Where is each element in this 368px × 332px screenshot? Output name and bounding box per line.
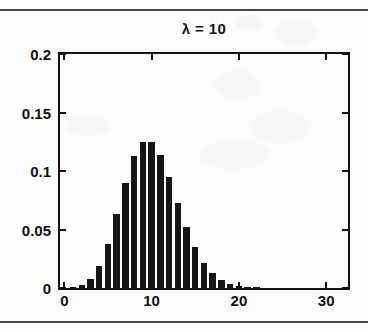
bar xyxy=(157,155,163,288)
bar xyxy=(122,183,128,288)
y-axis-tick-right xyxy=(342,170,348,172)
y-axis-tick-right xyxy=(342,229,348,231)
x-axis-tick xyxy=(238,282,240,288)
bar xyxy=(96,266,102,288)
bar xyxy=(218,280,224,288)
x-axis-tick-top xyxy=(63,54,65,60)
y-axis-tick-right xyxy=(342,112,348,114)
chart-axes xyxy=(58,52,350,290)
y-axis-tick xyxy=(60,112,66,114)
y-axis-tick xyxy=(60,229,66,231)
y-axis-tick-label: 0.2 xyxy=(0,46,51,63)
y-axis-tick-label: 0.05 xyxy=(0,221,51,238)
x-axis-tick-label: 20 xyxy=(231,292,248,309)
y-axis-tick-right xyxy=(342,287,348,289)
y-axis-tick-label: 0.15 xyxy=(0,104,51,121)
x-axis-tick-top xyxy=(238,54,240,60)
bar xyxy=(148,142,154,288)
x-axis-tick xyxy=(63,282,65,288)
bar xyxy=(244,287,250,288)
bar xyxy=(253,287,259,288)
bar xyxy=(70,287,76,288)
bar xyxy=(183,227,189,288)
bar xyxy=(131,156,137,288)
bar xyxy=(140,142,146,288)
y-axis-tick-label: 0.1 xyxy=(0,163,51,180)
x-axis-tick xyxy=(325,282,327,288)
chart-title: λ = 10 xyxy=(58,20,350,37)
plot-area xyxy=(60,54,348,288)
x-axis-tick-top xyxy=(151,54,153,60)
bar xyxy=(175,203,181,288)
page-rule-bottom xyxy=(0,321,368,323)
x-axis-tick-label: 30 xyxy=(318,292,335,309)
bar xyxy=(79,285,85,288)
page-rule-top xyxy=(0,9,368,11)
bar xyxy=(209,273,215,288)
y-axis-tick-label: 0 xyxy=(0,280,51,297)
y-axis-tick xyxy=(60,170,66,172)
bar xyxy=(227,284,233,288)
bar xyxy=(166,177,172,288)
x-axis-tick xyxy=(151,282,153,288)
y-axis-tick-right xyxy=(342,53,348,55)
x-axis-tick-top xyxy=(325,54,327,60)
figure-panel: λ = 10 00.050.10.150.20102030 xyxy=(0,0,368,332)
bar xyxy=(201,263,207,288)
bar xyxy=(192,247,198,288)
x-axis-tick-label: 0 xyxy=(60,292,68,309)
bar xyxy=(87,279,93,288)
x-axis-tick-label: 10 xyxy=(143,292,160,309)
bar xyxy=(105,244,111,288)
bar xyxy=(113,214,119,288)
